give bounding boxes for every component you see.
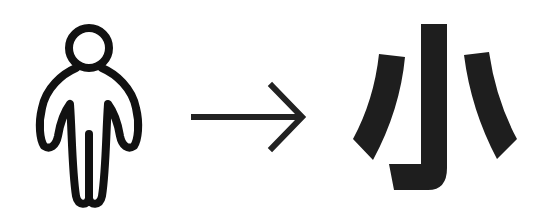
person-pictogram-icon	[40, 28, 138, 204]
right-arrow-icon	[194, 86, 302, 148]
pictogram-evolution-figure: 小	[0, 0, 551, 218]
kanji-small-character	[353, 24, 517, 190]
